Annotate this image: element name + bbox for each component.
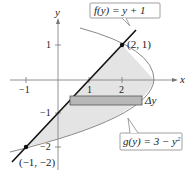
delta-y-rectangle bbox=[70, 96, 142, 105]
region-diagram: x y −1 1 2 1 −1 −2 (2, 1) (−1, −2) Δy f(… bbox=[0, 0, 192, 172]
y-axis-label: y bbox=[54, 6, 60, 18]
y-tick-label-1: 1 bbox=[46, 39, 51, 50]
y-tick-label-m2: −2 bbox=[40, 141, 51, 152]
x-axis-arrow-icon bbox=[172, 78, 178, 82]
g-label: g(y) = 3 − y2 bbox=[123, 135, 181, 148]
y-axis-arrow-icon bbox=[56, 18, 60, 24]
point-label-m1-m2: (−1, −2) bbox=[19, 156, 56, 169]
f-callout-pointer bbox=[122, 18, 130, 26]
point-label-2-1: (2, 1) bbox=[127, 38, 151, 51]
x-tick-label-m1: −1 bbox=[19, 84, 30, 95]
point-2-1 bbox=[120, 43, 124, 47]
x-axis-label: x bbox=[179, 73, 185, 85]
delta-y-label: Δy bbox=[144, 94, 156, 106]
point-m1-m2 bbox=[24, 145, 28, 149]
x-tick-label-2: 2 bbox=[119, 84, 124, 95]
y-tick-label-m1: −1 bbox=[40, 107, 51, 118]
x-tick-label-1: 1 bbox=[87, 84, 92, 95]
f-label: f(y) = y + 1 bbox=[94, 4, 146, 17]
g-callout-pointer bbox=[128, 118, 138, 133]
